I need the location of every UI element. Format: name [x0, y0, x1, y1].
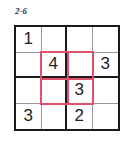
sudoku-grid: 1 4 3 3 3 2 [14, 25, 120, 131]
cell-r2-c2[interactable]: 3 [67, 78, 93, 104]
cell-r1-c3[interactable]: 3 [93, 53, 119, 79]
cell-r0-c0[interactable]: 1 [16, 27, 42, 53]
cell-r3-c1[interactable] [42, 104, 68, 130]
cell-r2-c3[interactable] [93, 78, 119, 104]
cell-r0-c1[interactable] [42, 27, 68, 53]
cell-r0-c2[interactable] [67, 27, 93, 53]
cell-r2-c0[interactable] [16, 78, 42, 104]
cell-r3-c0[interactable]: 3 [16, 104, 42, 130]
cell-r3-c3[interactable] [93, 104, 119, 130]
cell-r1-c2[interactable] [67, 53, 93, 79]
cell-r1-c0[interactable] [16, 53, 42, 79]
puzzle-label: 2-6 [15, 6, 27, 16]
cell-r2-c1[interactable] [42, 78, 68, 104]
cell-r3-c2[interactable]: 2 [67, 104, 93, 130]
cell-r1-c1[interactable]: 4 [42, 53, 68, 79]
cell-r0-c3[interactable] [93, 27, 119, 53]
